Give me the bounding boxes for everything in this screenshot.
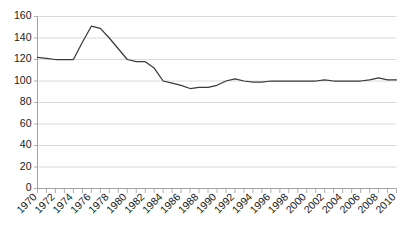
x-axis: 1970197219741976197819801982198419861988… bbox=[14, 189, 398, 216]
y-tick-label-60: 60 bbox=[20, 117, 32, 129]
data-line-index bbox=[38, 26, 397, 88]
y-tick-label-140: 140 bbox=[14, 31, 32, 43]
y-tick-label-100: 100 bbox=[14, 74, 32, 86]
chart-figure: 020406080100120140160 197019721974197619… bbox=[0, 0, 417, 246]
y-axis: 020406080100120140160 bbox=[14, 9, 38, 193]
gridlines bbox=[38, 17, 397, 168]
y-tick-label-80: 80 bbox=[20, 95, 32, 107]
line-chart: 020406080100120140160 197019721974197619… bbox=[0, 0, 417, 246]
y-tick-label-40: 40 bbox=[20, 138, 32, 150]
x-tick-label-2010: 2010 bbox=[373, 190, 398, 215]
data-series bbox=[38, 26, 397, 88]
y-tick-label-120: 120 bbox=[14, 52, 32, 64]
y-tick-label-20: 20 bbox=[20, 160, 32, 172]
y-tick-label-160: 160 bbox=[14, 9, 32, 21]
